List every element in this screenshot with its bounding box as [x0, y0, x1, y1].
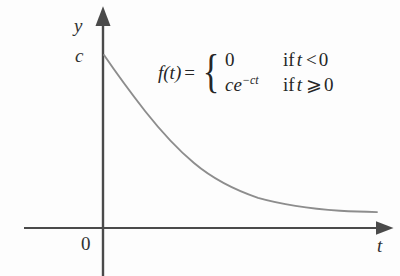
y-axis-label: y — [74, 16, 82, 35]
exponential-density-figure: y c t 0 f(t) = { 0 ift<0 ce−ct ift⩾0 — [0, 0, 400, 276]
case-value-exponent: −ct — [242, 73, 259, 87]
formula-left-hand-side: f(t) — [158, 63, 181, 82]
formula-case-row: 0 ift<0 — [225, 50, 333, 69]
left-curly-brace: { — [203, 54, 220, 90]
condition-bound: 0 — [324, 74, 334, 95]
condition-variable: t — [295, 49, 304, 70]
equals-sign: = — [184, 63, 195, 82]
origin-label: 0 — [81, 234, 91, 253]
case-value-base: ce — [225, 74, 242, 95]
condition-relation: < — [304, 49, 319, 70]
plot-canvas — [0, 0, 400, 276]
piecewise-formula: f(t) = { 0 ift<0 ce−ct ift⩾0 — [158, 50, 333, 94]
if-keyword: if — [283, 49, 295, 70]
condition-relation: ⩾ — [304, 74, 324, 95]
condition-bound: 0 — [319, 49, 329, 70]
x-axis-label: t — [377, 236, 382, 255]
condition-variable: t — [295, 74, 304, 95]
case-value: 0 — [225, 50, 283, 69]
y-intercept-label-c: c — [75, 46, 83, 65]
case-condition: ift⩾0 — [283, 75, 333, 94]
formula-case-row: ce−ct ift⩾0 — [225, 75, 333, 94]
formula-cases: 0 ift<0 ce−ct ift⩾0 — [225, 50, 333, 94]
case-value: ce−ct — [225, 75, 283, 94]
if-keyword: if — [283, 74, 295, 95]
case-condition: ift<0 — [283, 50, 328, 69]
